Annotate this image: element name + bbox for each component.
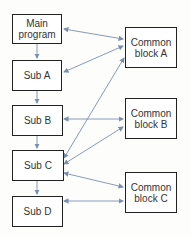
sub-c-box: Sub C	[12, 150, 64, 181]
common-block-a-box: Common block A	[125, 27, 177, 68]
common-block-b-box: Common block B	[125, 98, 177, 139]
sub-b-box: Sub B	[12, 105, 63, 136]
sub-d-box: Sub D	[12, 196, 63, 227]
arrow-subc-commona	[64, 58, 124, 158]
arrow-subc-commonc	[64, 173, 123, 187]
arrow-main-commona	[64, 29, 123, 39]
common-block-c-box: Common block C	[125, 172, 177, 213]
sub-a-box: Sub A	[12, 60, 62, 91]
main-program-box: Main program	[12, 14, 62, 44]
arrow-suba-commona	[64, 46, 123, 72]
arrow-subc-commonb	[64, 127, 123, 164]
